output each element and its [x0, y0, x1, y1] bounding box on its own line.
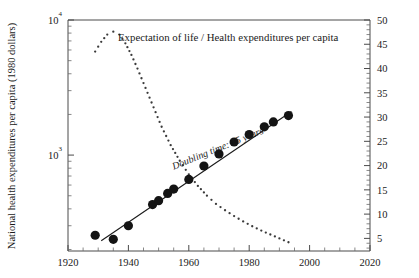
- life-curve-dot: [210, 199, 212, 201]
- life-curve-dot: [163, 130, 165, 132]
- y-right-tick-label: 35: [377, 88, 388, 99]
- life-curve-dot: [215, 203, 217, 205]
- y-axis-title: National health expenditures per capita …: [6, 22, 18, 249]
- y-right-tick-label: 5: [377, 233, 382, 244]
- annotation-doubling-time: Doubling time: 15 years: [169, 125, 265, 172]
- life-curve-dot: [146, 92, 148, 94]
- y-right-tick-label: 50: [377, 15, 388, 26]
- life-curve-dot: [148, 96, 150, 98]
- life-curve-dot: [156, 116, 158, 118]
- life-curve-dot: [126, 46, 128, 48]
- data-point: [269, 117, 278, 126]
- data-point: [284, 111, 293, 120]
- life-curve-dot: [136, 67, 138, 69]
- life-curve-dot: [185, 169, 187, 171]
- life-curve-dot: [160, 126, 162, 128]
- data-point: [91, 231, 100, 240]
- data-point: [199, 161, 208, 170]
- life-curve-dot: [251, 225, 253, 227]
- chart-canvas: 192019401960198020002020 103104 51015202…: [0, 0, 419, 278]
- expectation-of-life-dotted-curve: [94, 30, 290, 243]
- life-curve-dot: [200, 188, 202, 190]
- life-curve-dot: [269, 233, 271, 235]
- data-point: [124, 221, 133, 230]
- life-curve-dot: [112, 30, 114, 32]
- life-curve-dot: [140, 77, 142, 79]
- life-curve-dot: [283, 239, 285, 241]
- annotation-label: Doubling time: 15 years: [169, 125, 265, 172]
- y-right-tick-label: 30: [377, 112, 388, 123]
- life-curve-dot: [219, 206, 221, 208]
- life-curve-dot: [97, 46, 99, 48]
- life-curve-dot: [144, 87, 146, 89]
- life-curve-dot: [278, 237, 280, 239]
- life-curve-dot: [237, 218, 239, 220]
- y-left-tick-label: 104: [48, 10, 63, 26]
- x-tick-label: 2020: [360, 257, 381, 268]
- life-curve-dot: [130, 54, 132, 56]
- data-point: [154, 196, 163, 205]
- life-curve-dot: [100, 41, 102, 43]
- y-right-tick-label: 20: [377, 160, 388, 171]
- life-curve-dot: [194, 181, 196, 183]
- y-right-tick-label: 15: [377, 185, 388, 196]
- y-left-tick-label: 103: [48, 145, 63, 161]
- life-curve-dot: [256, 227, 258, 229]
- life-curve-dot: [228, 212, 230, 214]
- life-curve-dot: [158, 121, 160, 123]
- plot-frame: [68, 20, 370, 251]
- life-curve-dot: [134, 63, 136, 65]
- life-curve-dot: [265, 231, 267, 233]
- y-right-tick-label: 25: [377, 136, 388, 147]
- life-curve-dot: [154, 111, 156, 113]
- life-curve-dot: [103, 37, 105, 39]
- x-tick-label: 2000: [299, 257, 320, 268]
- life-curve-dot: [224, 209, 226, 211]
- data-point: [109, 235, 118, 244]
- life-curve-dot: [242, 220, 244, 222]
- x-axis-ticks: [68, 245, 370, 251]
- y-axis-left-tick-labels: 103104: [48, 10, 63, 161]
- life-curve-dot: [165, 135, 167, 137]
- x-tick-label: 1920: [58, 257, 79, 268]
- life-curve-dot: [260, 229, 262, 231]
- figure-container: 192019401960198020002020 103104 51015202…: [0, 0, 419, 278]
- life-curve-dot: [197, 185, 199, 187]
- life-curve-dot: [106, 33, 108, 35]
- life-curve-dot: [150, 101, 152, 103]
- data-point: [184, 175, 193, 184]
- chart-title: Expectation of life / Health expenditure…: [118, 31, 339, 43]
- x-tick-label: 1940: [118, 257, 139, 268]
- life-curve-dot: [170, 144, 172, 146]
- y-right-tick-label: 40: [377, 63, 388, 74]
- data-point: [169, 185, 178, 194]
- life-curve-dot: [138, 72, 140, 74]
- life-curve-dot: [142, 82, 144, 84]
- life-curve-dot: [172, 148, 174, 150]
- life-curve-dot: [203, 191, 205, 193]
- x-tick-label: 1960: [178, 257, 199, 268]
- life-curve-dot: [132, 58, 134, 60]
- y-right-tick-label: 10: [377, 209, 388, 220]
- life-curve-dot: [94, 50, 96, 52]
- y-axis-right-ticks: [364, 20, 370, 248]
- life-curve-dot: [247, 223, 249, 225]
- y-axis-left-ticks: [68, 20, 74, 250]
- x-tick-label: 1980: [239, 257, 260, 268]
- life-curve-dot: [287, 241, 289, 243]
- life-curve-dot: [174, 152, 176, 154]
- y-axis-right-tick-labels: 5101520253035404550: [377, 15, 388, 244]
- life-curve-dot: [206, 195, 208, 197]
- life-curve-dot: [274, 235, 276, 237]
- life-curve-dot: [167, 139, 169, 141]
- life-curve-dot: [152, 106, 154, 108]
- x-axis-tick-labels: 192019401960198020002020: [58, 257, 381, 268]
- y-right-tick-label: 45: [377, 39, 388, 50]
- life-curve-dot: [233, 215, 235, 217]
- life-curve-dot: [128, 50, 130, 52]
